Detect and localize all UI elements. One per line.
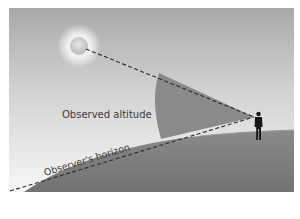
sun-icon: [71, 38, 88, 55]
observed-altitude-label: Observed altitude: [62, 109, 152, 120]
altitude-diagram: Observed altitude Observer's horizon: [0, 0, 300, 219]
